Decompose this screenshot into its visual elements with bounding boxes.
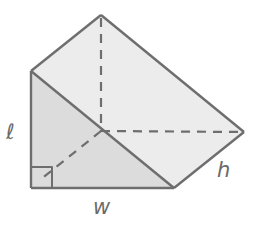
height-label: h	[217, 160, 230, 181]
length-label: ℓ	[6, 122, 15, 143]
width-label: w	[93, 197, 110, 218]
triangular-prism-diagram	[0, 0, 261, 231]
